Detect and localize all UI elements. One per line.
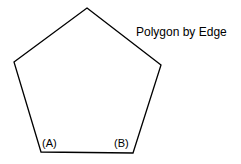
vertex-label-b: (B) — [114, 137, 129, 149]
vertex-label-a: (A) — [42, 137, 57, 149]
diagram-title: Polygon by Edge — [136, 25, 227, 39]
